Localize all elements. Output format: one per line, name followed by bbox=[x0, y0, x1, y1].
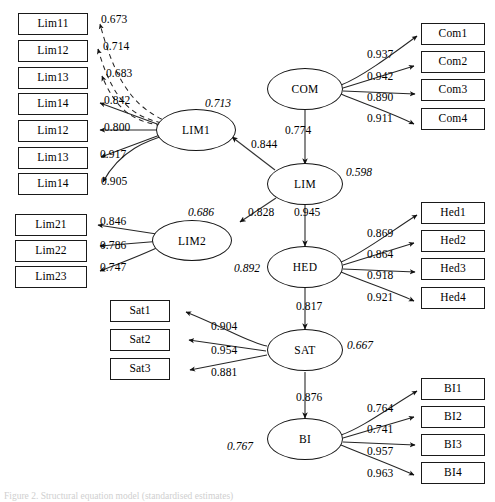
path-coefficient-lim-lim2: 0.828 bbox=[248, 207, 274, 219]
indicator-label: BI2 bbox=[444, 411, 462, 423]
loading-value: 0.714 bbox=[103, 41, 129, 53]
indicator-label: Hed4 bbox=[440, 292, 466, 304]
indicator-label: Hed2 bbox=[440, 235, 466, 247]
indicator-label: Sat1 bbox=[129, 305, 150, 317]
loading-value: 0.786 bbox=[100, 240, 126, 252]
indicator-label: Lim21 bbox=[35, 219, 67, 231]
r2-value-lim: 0.598 bbox=[346, 167, 372, 179]
loading-value: 0.904 bbox=[211, 321, 237, 333]
list-item[interactable]: Lim13 bbox=[18, 67, 88, 89]
list-item[interactable]: BI4 bbox=[421, 462, 485, 484]
loading-value: 0.864 bbox=[367, 249, 393, 261]
path-coefficient-lim-hed: 0.945 bbox=[294, 207, 320, 219]
loading-value: 0.937 bbox=[367, 49, 393, 61]
list-item[interactable]: Sat1 bbox=[110, 300, 170, 322]
loading-value: 0.890 bbox=[367, 92, 393, 104]
latent-lim1[interactable]: LIM1 bbox=[156, 109, 236, 151]
list-item[interactable]: Lim14 bbox=[18, 173, 88, 195]
loading-value: 0.917 bbox=[100, 149, 126, 161]
r2-value-hed: 0.892 bbox=[234, 263, 260, 275]
list-item[interactable]: Com3 bbox=[421, 79, 485, 101]
latent-label: COM bbox=[291, 83, 318, 95]
indicator-label: Com1 bbox=[439, 28, 468, 40]
loading-value: 0.905 bbox=[101, 176, 127, 188]
list-item[interactable]: Hed4 bbox=[421, 287, 485, 309]
list-item[interactable]: Lim21 bbox=[15, 214, 87, 236]
latent-hed[interactable]: HED bbox=[267, 246, 343, 288]
path-coefficient-sat-bi: 0.876 bbox=[296, 392, 322, 404]
list-item[interactable]: BI3 bbox=[421, 434, 485, 456]
list-item[interactable]: Lim22 bbox=[15, 240, 87, 262]
list-item[interactable]: Hed1 bbox=[421, 202, 485, 224]
list-item[interactable]: Com1 bbox=[421, 23, 485, 45]
loading-value: 0.842 bbox=[104, 95, 130, 107]
list-item[interactable]: Lim11 bbox=[18, 13, 88, 35]
loading-value: 0.673 bbox=[101, 14, 127, 26]
loading-value: 0.800 bbox=[104, 122, 130, 134]
list-item[interactable]: Lim12 bbox=[18, 40, 88, 62]
indicator-label: Lim14 bbox=[37, 98, 69, 110]
indicator-label: Hed1 bbox=[440, 207, 466, 219]
loading-value: 0.764 bbox=[367, 403, 393, 415]
indicator-label: Com4 bbox=[439, 113, 468, 125]
path-coefficient-hed-sat: 0.817 bbox=[296, 301, 322, 313]
latent-sat[interactable]: SAT bbox=[267, 329, 343, 371]
latent-label: HED bbox=[293, 261, 318, 273]
loading-value: 0.683 bbox=[106, 68, 132, 80]
list-item[interactable]: Sat2 bbox=[110, 329, 170, 351]
latent-bi[interactable]: BI bbox=[267, 418, 343, 460]
path-coefficient-com-lim: 0.774 bbox=[285, 125, 311, 137]
latent-label: SAT bbox=[294, 344, 315, 356]
loading-value: 0.954 bbox=[211, 345, 237, 357]
loading-value: 0.747 bbox=[100, 262, 126, 274]
indicator-label: Lim13 bbox=[37, 152, 69, 164]
indicator-label: BI4 bbox=[444, 467, 462, 479]
list-item[interactable]: Hed3 bbox=[421, 258, 485, 280]
indicator-label: Lim12 bbox=[37, 45, 69, 57]
loading-value: 0.963 bbox=[367, 468, 393, 480]
latent-lim[interactable]: LIM bbox=[267, 163, 343, 205]
indicator-label: Lim13 bbox=[37, 72, 69, 84]
indicator-label: Lim23 bbox=[35, 271, 67, 283]
indicator-label: Lim11 bbox=[37, 18, 68, 30]
list-item[interactable]: BI1 bbox=[421, 378, 485, 400]
r2-value-lim2: 0.686 bbox=[188, 207, 214, 219]
indicator-label: Com3 bbox=[439, 84, 468, 96]
latent-label: BI bbox=[299, 433, 311, 445]
list-item[interactable]: Lim23 bbox=[15, 266, 87, 288]
list-item[interactable]: Lim13 bbox=[18, 147, 88, 169]
r2-value-sat: 0.667 bbox=[347, 340, 373, 352]
indicator-label: Lim22 bbox=[35, 245, 67, 257]
indicator-label: Sat2 bbox=[129, 334, 150, 346]
indicator-label: BI1 bbox=[444, 383, 462, 395]
loading-value: 0.869 bbox=[367, 228, 393, 240]
loading-value: 0.911 bbox=[367, 113, 393, 125]
r2-value-lim1: 0.713 bbox=[205, 98, 231, 110]
latent-label: LIM bbox=[294, 178, 316, 190]
list-item[interactable]: Hed2 bbox=[421, 230, 485, 252]
indicator-label: Hed3 bbox=[440, 263, 466, 275]
indicator-label: Sat3 bbox=[129, 363, 150, 375]
figure-caption: Figure 2. Structural equation model (sta… bbox=[4, 491, 474, 502]
latent-lim2[interactable]: LIM2 bbox=[152, 220, 232, 261]
r2-value-bi: 0.767 bbox=[227, 441, 253, 453]
loading-value: 0.741 bbox=[367, 424, 393, 436]
latent-label: LIM2 bbox=[178, 235, 206, 247]
list-item[interactable]: Com4 bbox=[421, 108, 485, 130]
latent-com[interactable]: COM bbox=[267, 68, 343, 110]
path-coefficient-lim-lim1: 0.844 bbox=[251, 139, 277, 151]
loading-value: 0.846 bbox=[100, 216, 126, 228]
loading-value: 0.942 bbox=[367, 71, 393, 83]
loading-value: 0.921 bbox=[367, 292, 393, 304]
indicator-label: BI3 bbox=[444, 439, 462, 451]
loading-value: 0.957 bbox=[367, 446, 393, 458]
loading-value: 0.881 bbox=[211, 367, 237, 379]
indicator-label: Com2 bbox=[439, 56, 468, 68]
list-item[interactable]: Sat3 bbox=[110, 358, 170, 380]
loading-value: 0.918 bbox=[367, 270, 393, 282]
list-item[interactable]: BI2 bbox=[421, 406, 485, 428]
indicator-label: Lim12 bbox=[37, 125, 69, 137]
list-item[interactable]: Lim14 bbox=[18, 93, 88, 115]
list-item[interactable]: Com2 bbox=[421, 51, 485, 73]
list-item[interactable]: Lim12 bbox=[18, 120, 88, 142]
